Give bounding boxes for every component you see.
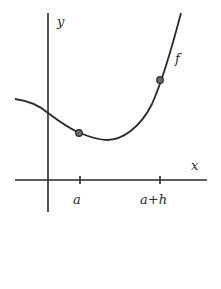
tick-label-a: a: [73, 192, 81, 207]
x-axis-label: x: [191, 158, 199, 173]
tick-label-a-plus-h: a+h: [140, 192, 167, 207]
curve-f: [15, 13, 181, 140]
y-axis-label: y: [56, 14, 65, 29]
point-at-a-plus-h: [157, 77, 164, 84]
curve-label-f: f: [174, 51, 182, 66]
point-at-a: [76, 130, 83, 137]
function-graph: y x f a a+h: [0, 0, 221, 289]
